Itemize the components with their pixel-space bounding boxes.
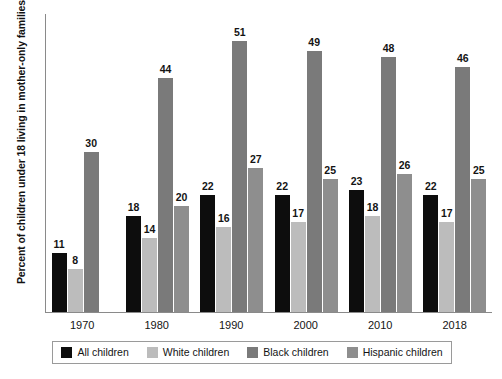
bar-slot: 11 bbox=[52, 14, 67, 312]
bar-group-2000: 22174925 bbox=[269, 14, 343, 312]
bar-slot: 16 bbox=[216, 14, 231, 312]
bar-value-label: 26 bbox=[399, 160, 411, 171]
bar-slot: 17 bbox=[439, 14, 454, 312]
bar-value-label: 48 bbox=[383, 43, 395, 54]
bar-chart: Percent of children under 18 living in m… bbox=[0, 0, 502, 379]
bar-all-children-1970: 11 bbox=[52, 253, 67, 312]
legend-label: Hispanic children bbox=[363, 347, 443, 358]
bar-all-children-1990: 22 bbox=[200, 195, 215, 312]
bar-value-label: 11 bbox=[54, 239, 65, 250]
bar-white-children-1980: 14 bbox=[142, 238, 157, 313]
bar-value-label: 14 bbox=[144, 224, 156, 235]
bar-white-children-1970: 8 bbox=[68, 269, 83, 312]
bar-black-children-1970: 30 bbox=[84, 152, 99, 312]
bar-value-label: 30 bbox=[85, 138, 97, 149]
x-tick-2018: 2018 bbox=[418, 316, 493, 334]
bar-black-children-1980: 44 bbox=[158, 78, 173, 312]
bar-hispanic-children-1990: 27 bbox=[248, 168, 263, 312]
chart-legend: All childrenWhite childrenBlack children… bbox=[52, 341, 452, 364]
bar-slot: 51 bbox=[232, 14, 247, 312]
legend-swatch-icon bbox=[247, 347, 258, 358]
bar-value-label: 23 bbox=[351, 176, 363, 187]
bar-value-label: 22 bbox=[425, 181, 437, 192]
bar-hispanic-children-1980: 20 bbox=[174, 206, 189, 312]
legend-label: White children bbox=[163, 347, 230, 358]
bar-slot: 46 bbox=[455, 14, 470, 312]
plot-area: 1183018144420221651272217492523184826221… bbox=[45, 14, 492, 313]
bar-group-1980: 18144420 bbox=[120, 14, 194, 312]
legend-item-hispanic-children[interactable]: Hispanic children bbox=[347, 347, 443, 358]
bar-black-children-2018: 46 bbox=[455, 67, 470, 312]
bar-value-label: 25 bbox=[324, 165, 336, 176]
bar-all-children-2010: 23 bbox=[349, 190, 364, 312]
bar-value-label: 25 bbox=[473, 165, 485, 176]
legend-item-black-children[interactable]: Black children bbox=[247, 347, 328, 358]
bar-value-label: 51 bbox=[234, 27, 246, 38]
bar-slot: 49 bbox=[307, 14, 322, 312]
x-axis-labels: 197019801990200020102018 bbox=[45, 316, 492, 334]
bar-slot: 18 bbox=[126, 14, 141, 312]
bar-value-label: 18 bbox=[367, 202, 379, 213]
bar-slot: 26 bbox=[397, 14, 412, 312]
x-tick-1970: 1970 bbox=[45, 316, 120, 334]
bar-slot: 44 bbox=[158, 14, 173, 312]
bar-slot bbox=[100, 14, 115, 312]
bar-value-label: 22 bbox=[276, 181, 288, 192]
x-tick-1980: 1980 bbox=[120, 316, 195, 334]
y-axis-title-text: Percent of children under 18 living in m… bbox=[16, 0, 27, 286]
bar-hispanic-children-2000: 25 bbox=[323, 179, 338, 312]
bar-slot: 22 bbox=[423, 14, 438, 312]
legend-swatch-icon bbox=[61, 347, 72, 358]
bar-slot: 30 bbox=[84, 14, 99, 312]
legend-swatch-icon bbox=[347, 347, 358, 358]
legend-label: All children bbox=[77, 347, 128, 358]
bar-value-label: 17 bbox=[292, 208, 304, 219]
bar-group-1970: 11830 bbox=[46, 14, 120, 312]
legend-swatch-icon bbox=[147, 347, 158, 358]
bar-all-children-1980: 18 bbox=[126, 216, 141, 312]
bar-slot: 22 bbox=[275, 14, 290, 312]
bar-black-children-2000: 49 bbox=[307, 51, 322, 312]
bar-black-children-1990: 51 bbox=[232, 41, 247, 312]
bar-value-label: 16 bbox=[218, 213, 230, 224]
bar-value-label: 18 bbox=[128, 202, 140, 213]
bar-slot: 25 bbox=[471, 14, 486, 312]
bar-slot: 23 bbox=[349, 14, 364, 312]
bar-value-label: 17 bbox=[441, 208, 453, 219]
bar-white-children-2018: 17 bbox=[439, 222, 454, 312]
x-tick-2010: 2010 bbox=[343, 316, 418, 334]
bar-value-label: 22 bbox=[202, 181, 214, 192]
bar-slot: 27 bbox=[248, 14, 263, 312]
bars-layer: 1183018144420221651272217492523184826221… bbox=[46, 14, 492, 312]
bar-group-1990: 22165127 bbox=[195, 14, 269, 312]
bar-value-label: 8 bbox=[72, 255, 78, 266]
bar-slot: 17 bbox=[291, 14, 306, 312]
bar-black-children-2010: 48 bbox=[381, 57, 396, 312]
bar-slot: 14 bbox=[142, 14, 157, 312]
bar-all-children-2018: 22 bbox=[423, 195, 438, 312]
bar-white-children-2010: 18 bbox=[365, 216, 380, 312]
bar-value-label: 20 bbox=[176, 192, 188, 203]
bar-value-label: 49 bbox=[308, 37, 320, 48]
legend-item-white-children[interactable]: White children bbox=[147, 347, 230, 358]
legend-label: Black children bbox=[263, 347, 328, 358]
bar-slot: 48 bbox=[381, 14, 396, 312]
bar-value-label: 46 bbox=[457, 53, 469, 64]
bar-group-2018: 22174625 bbox=[418, 14, 492, 312]
bar-slot: 8 bbox=[68, 14, 83, 312]
bar-value-label: 27 bbox=[250, 154, 262, 165]
x-tick-1990: 1990 bbox=[194, 316, 269, 334]
bar-hispanic-children-2018: 25 bbox=[471, 179, 486, 312]
x-tick-2000: 2000 bbox=[269, 316, 344, 334]
legend-item-all-children[interactable]: All children bbox=[61, 347, 128, 358]
bar-all-children-2000: 22 bbox=[275, 195, 290, 312]
bar-hispanic-children-2010: 26 bbox=[397, 174, 412, 312]
y-axis-title: Percent of children under 18 living in m… bbox=[0, 0, 42, 330]
bar-slot: 25 bbox=[323, 14, 338, 312]
bar-group-2010: 23184826 bbox=[343, 14, 417, 312]
bar-slot: 22 bbox=[200, 14, 215, 312]
bar-white-children-2000: 17 bbox=[291, 222, 306, 312]
bar-slot: 18 bbox=[365, 14, 380, 312]
bar-value-label: 44 bbox=[160, 64, 172, 75]
bar-slot: 20 bbox=[174, 14, 189, 312]
